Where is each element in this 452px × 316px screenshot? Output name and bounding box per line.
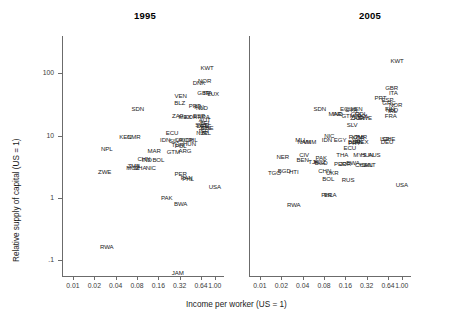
data-point-label: BWA	[174, 201, 187, 207]
panel-title-1995: 1995	[60, 10, 230, 21]
y-axis-label: Relative supply of capital (US = 1)	[12, 138, 21, 262]
y-tick-label: 10	[24, 132, 54, 139]
data-point-label: JAM	[172, 270, 184, 276]
data-point-label: RWA	[100, 244, 114, 250]
panel-title-2005: 2005	[285, 10, 452, 21]
x-tick-mark	[388, 276, 389, 280]
x-tick-mark	[367, 276, 368, 280]
x-tick-label: 1.00	[389, 282, 415, 289]
data-point-label: NPL	[101, 146, 113, 152]
x-tick-mark	[260, 276, 261, 280]
x-tick-mark	[303, 276, 304, 280]
data-point-label: PAN	[181, 175, 193, 181]
x-tick-mark	[73, 276, 74, 280]
y-tick-label: 100	[24, 69, 54, 76]
data-point-label: DEU	[381, 139, 394, 145]
data-point-label: USA	[396, 182, 408, 188]
data-point-label: MAR	[148, 148, 161, 154]
y-tick-mark	[58, 73, 62, 74]
data-point-label: BOL	[152, 157, 164, 163]
x-tick-mark	[180, 276, 181, 280]
x-tick-mark	[116, 276, 117, 280]
data-point-label: SWE	[358, 115, 372, 121]
x-axis-label: Income per worker (US = 1)	[186, 300, 287, 309]
data-point-label: NER	[277, 153, 290, 159]
data-point-label: DNK	[193, 80, 206, 86]
data-point-label: IDN	[322, 137, 332, 143]
data-point-label: BGD	[315, 160, 328, 166]
x-tick-mark	[345, 276, 346, 280]
data-point-label: BLZ	[174, 100, 185, 106]
data-point-label: HTI	[289, 169, 299, 175]
data-point-label: GHA	[133, 165, 146, 171]
x-tick-mark	[324, 276, 325, 280]
data-point-label: MLT	[364, 162, 375, 168]
scatter-figure: 1995 2005 Relative supply of capital (US…	[0, 0, 452, 316]
data-point-label: VNM	[303, 139, 316, 145]
data-point-label: NIC	[146, 165, 156, 171]
data-point-label: NLD	[196, 105, 208, 111]
x-tick-mark	[137, 276, 138, 280]
data-point-label: KWT	[390, 58, 403, 64]
x-axis-line-1995	[62, 276, 224, 277]
x-tick-label: 1.00	[202, 282, 228, 289]
y-tick-mark	[58, 260, 62, 261]
data-point-label: CMR	[127, 134, 141, 140]
data-point-label: KWT	[200, 65, 213, 71]
y-tick-mark	[58, 198, 62, 199]
data-point-label: SDN	[131, 106, 144, 112]
x-axis-line-2005	[249, 276, 411, 277]
data-point-label: SDN	[314, 106, 327, 112]
data-point-label: AUS	[368, 152, 380, 158]
data-point-label: USA	[209, 184, 221, 190]
data-point-label: EGY	[334, 137, 347, 143]
data-point-label: RWA	[287, 202, 301, 208]
y-tick-label: .1	[24, 256, 54, 263]
data-point-label: GBR	[197, 90, 210, 96]
data-point-label: BOL	[322, 176, 334, 182]
y-tick-label: 1	[24, 194, 54, 201]
data-point-label: PAK	[161, 195, 172, 201]
data-point-label: NZL	[196, 130, 207, 136]
data-point-label: ARG	[179, 148, 192, 154]
data-point-label: SLV	[347, 122, 358, 128]
data-point-label: RUS	[342, 177, 355, 183]
data-point-label: THA	[336, 152, 348, 158]
plot-area-2005: KWTGBRITAPRTESPGRCNORFINNLDIRLFRASDNECUV…	[249, 36, 411, 276]
data-point-label: ERA	[324, 192, 336, 198]
x-tick-mark	[402, 276, 403, 280]
x-tick-mark	[201, 276, 202, 280]
data-point-label: IND	[142, 157, 152, 163]
x-tick-mark	[281, 276, 282, 280]
plot-area-1995: KWTNORDNKLUXITAGBRVENBLZPRTFINNLDSDNZAFM…	[62, 36, 224, 276]
x-tick-mark	[215, 276, 216, 280]
y-tick-mark	[58, 136, 62, 137]
x-tick-mark	[94, 276, 95, 280]
data-point-label: FRA	[385, 112, 397, 118]
data-point-label: BEN	[297, 157, 309, 163]
x-tick-mark	[158, 276, 159, 280]
data-point-label: ZWE	[98, 169, 111, 175]
